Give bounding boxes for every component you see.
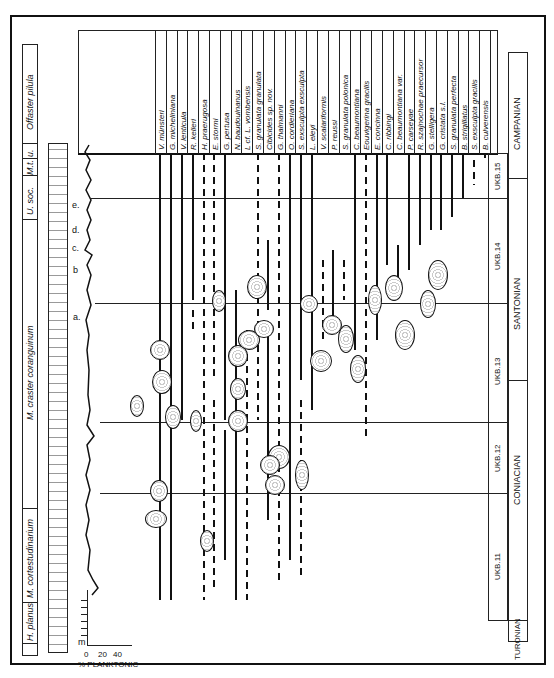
species-range-line [213, 153, 215, 380]
depth-axis [87, 590, 88, 645]
foraminifera-drawing-icon [247, 275, 267, 299]
depth-tick [81, 600, 87, 601]
species-range-line [267, 240, 269, 310]
foraminifera-drawing-icon [130, 395, 144, 417]
bed-label-c: c. [72, 243, 79, 253]
ukb-divider [488, 303, 508, 304]
foraminifera-drawing-icon [420, 290, 436, 318]
foraminifera-drawing-icon [150, 480, 168, 502]
species-range-line [365, 153, 367, 440]
zone-label-cortestudinarium: M. cortestudinarium [25, 519, 36, 598]
species-range-line [224, 153, 226, 420]
ukb-divider [488, 493, 508, 494]
depth-tick [81, 614, 87, 615]
foraminifera-drawing-icon [300, 295, 318, 313]
species-range-line [354, 153, 356, 350]
species-range-line [473, 160, 475, 185]
foraminifera-drawing-icon [228, 410, 248, 432]
ukb15-label: UKB.15 [492, 162, 503, 190]
foraminifera-drawing-icon [190, 410, 202, 432]
foraminifera-drawing-icon [152, 370, 172, 394]
ukb-zone-column [488, 153, 508, 621]
species-range-line [386, 153, 388, 265]
species-column-divider [490, 30, 491, 154]
depth-tick [81, 621, 87, 622]
foraminifera-drawing-icon [230, 378, 246, 400]
species-range-line [462, 153, 464, 198]
zone-label-mt: M.t. [25, 160, 36, 175]
depth-unit-label: m [78, 637, 86, 647]
stage-turonian: TURONIAN [512, 618, 523, 660]
depth-tick [81, 628, 87, 629]
species-range-line [311, 153, 313, 410]
planktonic-curve [80, 140, 110, 600]
species-range-line [235, 290, 237, 350]
tick-20: 20 [98, 650, 107, 659]
foraminifera-drawing-icon [165, 405, 181, 429]
foraminifera-drawing-icon [310, 350, 332, 372]
species-range-line [192, 153, 194, 300]
zone-label-coranguinum: M. craster coranguinum [25, 325, 36, 420]
stage-divider [508, 178, 528, 179]
species-range-line [300, 153, 302, 380]
species-range-line [484, 153, 486, 158]
ukb12-label: UKB.12 [492, 444, 503, 472]
foraminifera-drawing-icon [265, 475, 285, 495]
foraminifera-drawing-icon [350, 355, 366, 383]
foraminifera-drawing-icon [368, 285, 382, 315]
tick-40: 40 [113, 650, 122, 659]
species-range-line [408, 153, 410, 270]
bed-label-d: d. [72, 225, 80, 235]
stage-coniacian: CONIACIAN [512, 455, 523, 505]
ukb11-label: UKB.11 [492, 553, 503, 580]
foraminifera-drawing-icon [295, 460, 309, 490]
depth-tick [81, 607, 87, 608]
planktonic-axis-label: % PLANKTONIC [78, 660, 138, 669]
tick-0: 0 [84, 650, 88, 659]
bed-label-b: b [73, 265, 78, 275]
percent-axis [87, 645, 132, 646]
foraminifera-drawing-icon [254, 320, 274, 338]
species-range-line [224, 430, 226, 560]
foraminifera-drawing-icon [150, 340, 170, 360]
ukb14-label: UKB.14 [492, 242, 503, 270]
ukb13-label: UKB.13 [492, 357, 503, 385]
species-range-line [246, 330, 248, 600]
species-range-line [451, 153, 453, 217]
species-range-line [278, 153, 280, 580]
species-range-line [213, 400, 215, 590]
foraminifera-drawing-icon [200, 530, 214, 552]
zone-label-offaster: Offaster pilula [25, 74, 36, 130]
foraminifera-drawing-icon [145, 510, 167, 528]
foraminifera-drawing-icon [395, 320, 415, 350]
species-range-line [289, 153, 291, 560]
species-range-line [343, 260, 345, 300]
foraminifera-drawing-icon [212, 290, 226, 312]
species-range-line [419, 153, 421, 245]
species-range-line [300, 400, 302, 580]
zone-label-usoc: U. soc. [25, 187, 36, 215]
ukb-divider [488, 422, 508, 423]
depth-tick [81, 635, 87, 636]
foraminifera-drawing-icon [428, 260, 448, 290]
zone-label-u: u. [25, 149, 36, 157]
stage-campanian: CAMPANIAN [512, 97, 523, 150]
foraminifera-drawing-icon [338, 325, 354, 353]
species-range-line [192, 310, 194, 330]
foraminifera-drawing-icon [385, 275, 403, 301]
species-range-line [430, 153, 432, 230]
species-range-line [181, 153, 183, 420]
stage-divider [508, 380, 528, 381]
bed-label-e: e. [72, 200, 80, 210]
species-range-line [440, 153, 442, 230]
lithology-log [48, 143, 68, 653]
zone-label-hplanus: H. planus [25, 603, 36, 641]
stage-santonian: SANTONIAN [512, 278, 523, 330]
ukb-divider [488, 198, 508, 199]
foraminifera-drawing-icon [260, 455, 280, 475]
